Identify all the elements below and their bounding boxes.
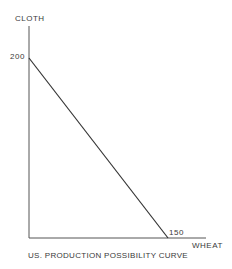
x-intercept-label: 150 xyxy=(169,228,184,237)
chart-caption: US. PRODUCTION POSSIBILITY CURVE xyxy=(28,251,188,260)
y-intercept-label: 200 xyxy=(10,52,25,61)
production-possibility-curve xyxy=(29,58,168,238)
x-axis-label: WHEAT xyxy=(192,241,223,250)
chart-canvas xyxy=(0,0,232,269)
y-axis-label: CLOTH xyxy=(15,14,45,23)
